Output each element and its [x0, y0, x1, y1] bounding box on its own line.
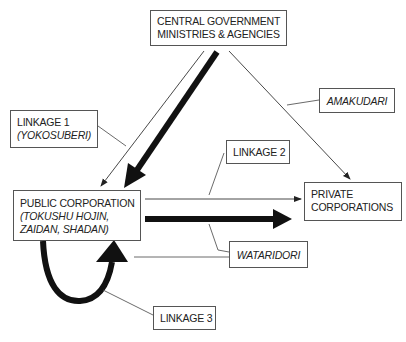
wataridori-thick-arrow — [145, 209, 292, 229]
wataridori-text: WATARIDORI — [236, 249, 301, 262]
private-corporations-node: PRIVATE CORPORATIONS — [304, 182, 402, 221]
amakudari-text: AMAKUDARI — [326, 95, 388, 108]
linkage3-loop-arrow — [43, 240, 128, 301]
wataridori-label: WATARIDORI — [229, 241, 308, 268]
diagram-canvas — [0, 0, 406, 342]
central-government-node: CENTRAL GOVERNMENT MINISTRIES & AGENCIES — [150, 10, 287, 46]
central-line2: MINISTRIES & AGENCIES — [157, 28, 280, 41]
public-line1: PUBLIC CORPORATION — [20, 197, 134, 210]
linkage1-arrow — [101, 51, 204, 186]
linkage3-text: LINKAGE 3 — [160, 312, 209, 325]
linkage1-title: LINKAGE 1 — [17, 116, 91, 129]
central-line1: CENTRAL GOVERNMENT — [157, 15, 280, 28]
linkage2-leader — [209, 153, 224, 195]
amakudari-leader — [287, 100, 319, 105]
public-line3: ZAIDAN, SHADAN) — [20, 223, 134, 236]
wataridori-leader — [209, 224, 229, 252]
private-line1: PRIVATE — [311, 188, 395, 201]
linkage2-text: LINKAGE 2 — [233, 146, 283, 159]
private-line2: CORPORATIONS — [311, 201, 395, 214]
linkage2-label: LINKAGE 2 — [226, 140, 290, 164]
linkage1-subtitle: (YOKOSUBERI) — [17, 129, 91, 142]
linkage3-label: LINKAGE 3 — [153, 306, 216, 330]
linkage1-label: LINKAGE 1 (YOKOSUBERI) — [10, 110, 98, 148]
linkage3-leader — [103, 290, 153, 315]
public-line2: (TOKUSHU HOJIN, — [20, 210, 134, 223]
linkage1-leader — [98, 126, 126, 146]
amakudari-label: AMAKUDARI — [319, 88, 395, 113]
public-corporation-node: PUBLIC CORPORATION (TOKUSHU HOJIN, ZAIDA… — [13, 190, 141, 241]
central-to-public-thick-arrow — [124, 52, 217, 188]
